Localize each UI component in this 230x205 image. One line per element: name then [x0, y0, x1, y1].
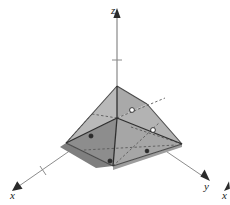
midpoint-marker-1 [130, 108, 135, 113]
axis-label-x-clipped-neighbor: x [221, 189, 227, 201]
axis-label-z: z [110, 4, 116, 16]
midpoint-marker-2 [151, 128, 156, 133]
solid-faces-group [60, 86, 182, 170]
axis-label-y: y [203, 180, 209, 192]
figure-canvas: zxyx [0, 0, 230, 205]
midpoint-marker-4 [108, 159, 112, 163]
midpoint-marker-3 [89, 134, 93, 138]
midpoint-marker-5 [145, 149, 149, 153]
axis-label-x: x [9, 189, 15, 201]
3d-solid-diagram: zxyx [0, 0, 230, 205]
